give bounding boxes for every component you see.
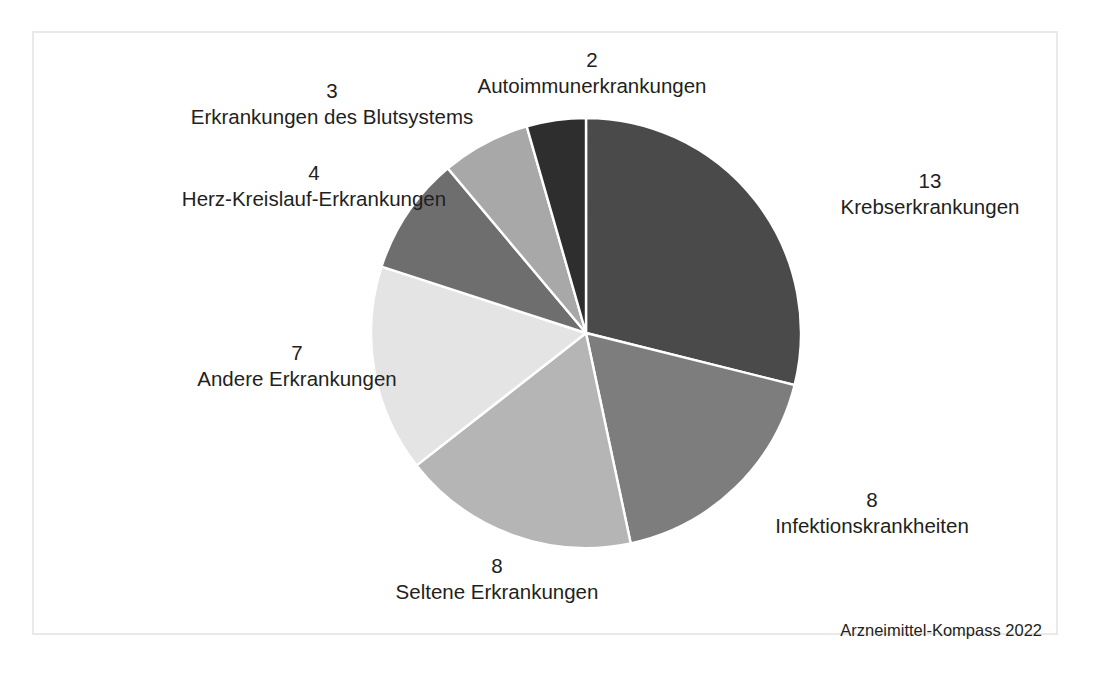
pie-label-name: Krebserkrankungen [810, 194, 1050, 220]
pie-chart-figure: 2 Autoimmunerkrankungen 3 Erkrankungen d… [0, 0, 1096, 680]
pie-label-andere-erkrankungen: 7 Andere Erkrankungen [152, 340, 442, 392]
pie-label-value: 4 [134, 160, 494, 186]
pie-label-value: 8 [352, 553, 642, 579]
pie-label-value: 3 [172, 78, 492, 104]
pie-label-value: 13 [810, 168, 1050, 194]
pie-label-name: Andere Erkrankungen [152, 366, 442, 392]
pie-label-krebserkrankungen: 13 Krebserkrankungen [810, 168, 1050, 220]
source-attribution: Arzneimittel-Kompass 2022 [840, 621, 1042, 640]
pie-label-herz-kreislauf-erkrankungen: 4 Herz-Kreislauf-Erkrankungen [134, 160, 494, 212]
pie-label-name: Erkrankungen des Blutsystems [172, 104, 492, 130]
pie-label-name: Infektionskrankheiten [742, 513, 1002, 539]
pie-label-infektionskrankheiten: 8 Infektionskrankheiten [742, 487, 1002, 539]
pie-label-name: Herz-Kreislauf-Erkrankungen [134, 186, 494, 212]
pie-label-value: 8 [742, 487, 1002, 513]
pie-label-seltene-erkrankungen: 8 Seltene Erkrankungen [352, 553, 642, 605]
pie-label-value: 2 [432, 47, 752, 73]
pie-label-erkrankungen-des-blutsystems: 3 Erkrankungen des Blutsystems [172, 78, 492, 130]
pie-label-value: 7 [152, 340, 442, 366]
pie-label-name: Seltene Erkrankungen [352, 579, 642, 605]
